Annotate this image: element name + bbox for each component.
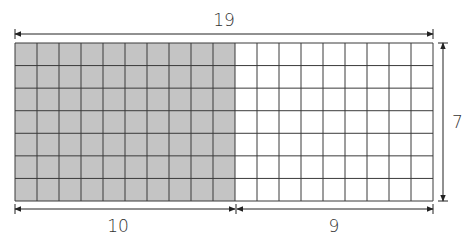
- top-width-label: 19: [213, 10, 235, 30]
- right-dimension-arrow: [438, 43, 448, 201]
- area-model-diagram: 19 7 10 9: [0, 0, 468, 244]
- top-dimension-arrow: [15, 29, 433, 39]
- bottom-right-dimension-arrow: [236, 204, 433, 214]
- bottom-left-label: 10: [107, 216, 129, 236]
- right-height-label: 7: [452, 112, 463, 132]
- bottom-left-dimension-arrow: [15, 204, 235, 214]
- bottom-right-label: 9: [329, 216, 340, 236]
